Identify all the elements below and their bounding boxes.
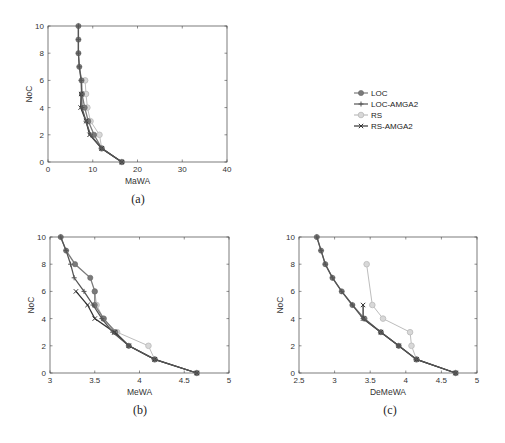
y-tick-label: 10 [37,233,46,242]
x-marker-icon [93,316,97,320]
series-loc-amga2 [76,24,124,165]
chart-b: 33.544.550246810MeWANoC(b) [26,233,232,417]
x-axis-label: MeWA [127,387,153,397]
chart-c: 2.533.544.550246810DeMeWANoC(c) [275,233,480,417]
y-tick-label: 2 [40,131,45,140]
y-axis-label: NoC [24,85,34,102]
chart-caption: (a) [131,192,144,206]
y-tick-label: 0 [42,369,47,378]
x-tick-label: 30 [178,165,187,174]
x-tick-label: 3 [48,376,53,385]
series-loc-amga2 [314,235,458,376]
x-marker-icon [74,289,78,293]
y-tick-label: 6 [40,76,45,85]
x-tick-label: 2.5 [293,376,305,385]
x-tick-label: 3 [332,376,337,385]
figure-canvas: 0102030400246810MaWANoC(a) 33.544.550246… [0,0,505,443]
diamond-marker-icon [407,329,413,335]
y-tick-label: 8 [42,260,47,269]
y-tick-label: 4 [42,315,47,324]
series-rs [92,289,200,376]
x-axis-label: MaWA [125,176,151,186]
chart-caption: (b) [133,403,147,417]
series-loc [58,234,199,375]
y-tick-label: 6 [291,287,296,296]
x-tick-label: 3.5 [89,376,101,385]
y-tick-label: 0 [40,158,45,167]
x-tick-label: 10 [88,165,97,174]
plot-area-frame [299,237,477,373]
legend-label: LOC-AMGA2 [371,100,419,109]
y-tick-label: 10 [35,22,44,31]
y-tick-label: 4 [40,104,45,113]
series-rs-amga2 [78,92,124,164]
series-rs [364,261,459,375]
y-axis-label: NoC [275,296,285,313]
y-tick-label: 10 [286,233,295,242]
series-rs-amga2 [74,289,199,375]
x-tick-label: 20 [133,165,142,174]
plot-area-frame [48,26,227,162]
y-tick-label: 4 [291,315,296,324]
o-marker-icon [72,262,77,267]
plot-area-frame [50,237,229,373]
diamond-marker-icon [364,261,370,267]
x-tick-label: 4.5 [436,376,448,385]
x-tick-label: 5 [475,376,480,385]
o-marker-icon [88,275,93,280]
legend-label: LOC [371,89,388,98]
legend-label: RS-AMGA2 [371,122,413,131]
o-marker-icon [358,90,363,95]
diamond-marker-icon [358,112,364,118]
diamond-marker-icon [97,132,103,138]
diamond-marker-icon [380,316,386,322]
x-tick-label: 40 [223,165,232,174]
series-loc-amga2 [58,235,199,376]
x-tick-label: 0 [46,165,51,174]
y-tick-label: 0 [291,369,296,378]
y-tick-label: 6 [42,287,47,296]
y-tick-label: 2 [42,342,47,351]
chart-a: 0102030400246810MaWANoC(a) [24,22,232,206]
o-marker-icon [92,289,97,294]
diamond-marker-icon [409,343,415,349]
y-tick-label: 2 [291,342,296,351]
y-axis-label: NoC [26,296,36,313]
x-tick-label: 4 [137,376,142,385]
legend: LOCLOC-AMGA2RSRS-AMGA2 [350,87,420,137]
y-tick-label: 8 [291,260,296,269]
x-tick-label: 5 [227,376,232,385]
y-tick-label: 8 [40,49,45,58]
x-tick-label: 4.5 [179,376,191,385]
+-marker-icon [68,262,73,267]
x-axis-label: DeMeWA [370,387,406,397]
series-loc [314,234,458,375]
diamond-marker-icon [146,343,152,349]
x-tick-label: 3.5 [365,376,377,385]
legend-label: RS [371,111,382,120]
x-marker-icon [85,303,89,307]
x-tick-label: 4 [404,376,409,385]
chart-caption: (c) [383,403,396,417]
diamond-marker-icon [370,302,376,308]
series-rs-amga2 [361,303,458,375]
